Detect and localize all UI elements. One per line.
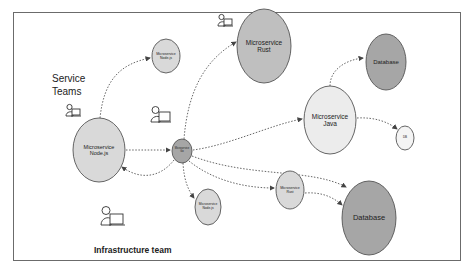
node-label-line2: Node.js bbox=[84, 150, 115, 156]
edge-go-to-rust-top bbox=[184, 42, 236, 139]
node-nodejs-main-label: Microservice Node.js bbox=[84, 144, 115, 157]
edge-rust-to-database-bottom bbox=[305, 193, 342, 205]
node-rust-top-label: Microservice Rust bbox=[246, 39, 282, 54]
node-nodejs-top-label: Microservice Node.js bbox=[156, 52, 176, 60]
edge-java-to-database-top bbox=[330, 58, 363, 86]
node-database-top-label: Database bbox=[373, 59, 399, 66]
node-label-line1: Microservice bbox=[312, 113, 348, 120]
service-teams-line2: Teams bbox=[52, 85, 85, 98]
node-label-line1: Database bbox=[353, 214, 385, 223]
diagram-canvas: Service Teams Infrastructure team Micros… bbox=[0, 0, 472, 275]
service-teams-line1: Service bbox=[52, 72, 85, 85]
diagram-svg bbox=[0, 0, 472, 275]
node-nodejs-bottom-label: Microservice Node.js bbox=[199, 203, 218, 211]
edge-go-to-nodejs bbox=[122, 160, 174, 175]
person-laptop-icon bbox=[66, 104, 81, 116]
edge-nodejs-to-nodejs-top bbox=[100, 58, 150, 118]
node-label-line2: Node.js bbox=[156, 56, 176, 60]
person-laptop-icon bbox=[101, 207, 125, 226]
edge-go-to-database-bottom bbox=[192, 156, 346, 187]
node-label-line2: Go bbox=[175, 151, 190, 154]
node-label-line2: Rust bbox=[280, 190, 300, 194]
node-label-line2: Java bbox=[312, 120, 348, 127]
node-label-line1: DB bbox=[403, 136, 407, 139]
infrastructure-team-label: Infrastructure team bbox=[94, 245, 171, 255]
service-teams-label: Service Teams bbox=[52, 72, 85, 98]
edge-go-to-nodejs-bottom bbox=[183, 163, 194, 198]
node-rust-bottom-label: Microservice Rust bbox=[280, 186, 300, 194]
person-laptop-icon bbox=[151, 107, 171, 123]
node-label-line1: Database bbox=[373, 59, 399, 66]
node-label-line2: Rust bbox=[246, 46, 282, 53]
edge-java-to-db-small bbox=[357, 118, 397, 129]
node-java-label: Microservice Java bbox=[312, 113, 348, 128]
edge-go-to-java bbox=[193, 119, 302, 150]
node-go-label: Microservice Go bbox=[175, 148, 190, 154]
node-db-small-label: DB bbox=[403, 136, 407, 139]
node-label-line2: Node.js bbox=[199, 207, 218, 211]
node-database-bottom-label: Database bbox=[353, 214, 385, 223]
edge-go-to-rust-bottom bbox=[189, 161, 274, 188]
person-laptop-icon bbox=[218, 14, 233, 26]
node-label-line1: Microservice bbox=[246, 39, 282, 46]
